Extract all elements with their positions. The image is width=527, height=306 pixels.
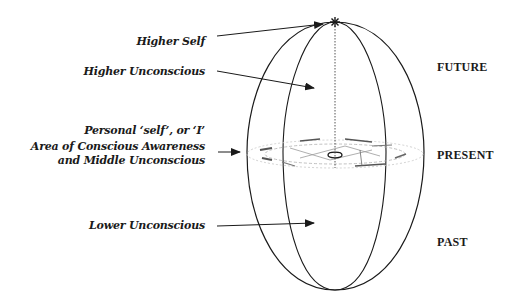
arrow-higher-self [217,24,323,36]
label-conscious-awareness-line1: Area of Conscious Awareness [31,140,205,153]
arrow-lower-unconscious [217,223,314,226]
higher-self-star-icon [330,17,340,27]
label-higher-unconscious: Higher Unconscious [83,65,205,78]
arrow-higher-unconscious [217,71,314,88]
label-lower-unconscious: Lower Unconscious [89,219,205,232]
label-higher-self: Higher Self [136,35,205,48]
label-future: FUTURE [437,60,488,75]
label-present: PRESENT [437,148,494,163]
egg-diagram: Higher Self Higher Unconscious Personal … [0,0,527,306]
label-personal-self: Personal ‘self’, or ‘I’ [84,124,205,137]
label-past: PAST [437,235,468,250]
label-conscious-awareness-line2: and Middle Unconscious [58,154,205,167]
